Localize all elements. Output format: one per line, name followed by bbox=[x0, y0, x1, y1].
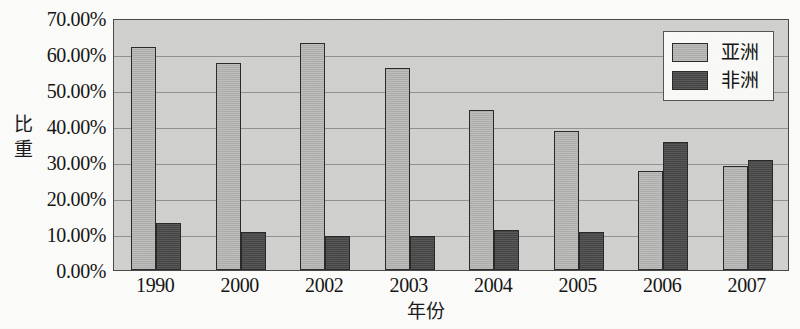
bar bbox=[494, 230, 519, 270]
bar bbox=[216, 63, 241, 270]
bar-group bbox=[283, 20, 368, 270]
bar bbox=[385, 68, 410, 270]
legend: 亚洲非洲 bbox=[663, 31, 774, 101]
x-tick-label: 1990 bbox=[113, 274, 198, 296]
chart-screenshot: 比重 70.00%60.00%50.00%40.00%30.00%20.00%1… bbox=[0, 0, 800, 329]
y-tick-label: 40.00% bbox=[47, 117, 106, 137]
y-tick-label: 30.00% bbox=[47, 153, 106, 173]
plot-area: 亚洲非洲 bbox=[113, 19, 789, 271]
x-axis-title-text: 年份 bbox=[407, 300, 445, 322]
bar bbox=[156, 223, 181, 270]
bar bbox=[241, 232, 266, 270]
y-axis-tick-labels: 70.00%60.00%50.00%40.00%30.00%20.00%10.0… bbox=[34, 0, 110, 329]
bar bbox=[469, 110, 494, 270]
legend-swatch bbox=[672, 71, 708, 90]
bar bbox=[579, 232, 604, 270]
bar bbox=[554, 131, 579, 270]
legend-label: 亚洲 bbox=[721, 43, 759, 62]
bar bbox=[638, 171, 663, 270]
bar bbox=[131, 47, 156, 270]
bar-group bbox=[452, 20, 537, 270]
x-axis-title: 年份 bbox=[0, 300, 800, 322]
x-tick-label: 2005 bbox=[536, 274, 621, 296]
y-tick-label: 0.00% bbox=[56, 261, 106, 281]
y-tick-label: 60.00% bbox=[47, 45, 106, 65]
x-tick-label: 2002 bbox=[282, 274, 367, 296]
bar bbox=[663, 142, 688, 270]
legend-swatch bbox=[672, 43, 708, 62]
bar bbox=[325, 236, 350, 270]
bar bbox=[723, 166, 748, 270]
y-tick-label: 50.00% bbox=[47, 81, 106, 101]
x-tick-label: 2004 bbox=[451, 274, 536, 296]
bar bbox=[410, 236, 435, 270]
x-tick-label: 2007 bbox=[705, 274, 790, 296]
x-tick-label: 2006 bbox=[620, 274, 705, 296]
x-tick-label: 2000 bbox=[198, 274, 283, 296]
bar-group bbox=[537, 20, 622, 270]
bar-group bbox=[114, 20, 199, 270]
y-tick-label: 70.00% bbox=[47, 9, 106, 29]
y-tick-label: 20.00% bbox=[47, 189, 106, 209]
bar-group bbox=[199, 20, 284, 270]
y-tick-label: 10.00% bbox=[47, 225, 106, 245]
bar-group bbox=[368, 20, 453, 270]
x-axis-tick-labels: 19902000200220032004200520062007 bbox=[113, 274, 789, 300]
x-tick-label: 2003 bbox=[367, 274, 452, 296]
legend-item: 非洲 bbox=[672, 66, 759, 94]
bar bbox=[748, 160, 773, 270]
bar bbox=[300, 43, 325, 270]
legend-label: 非洲 bbox=[721, 71, 759, 90]
legend-item: 亚洲 bbox=[672, 38, 759, 66]
